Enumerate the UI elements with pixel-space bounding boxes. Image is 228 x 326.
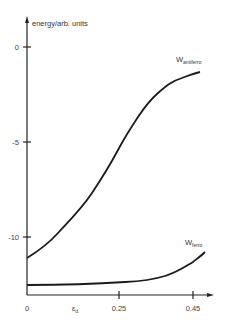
x-tick-label-025: 0.25 bbox=[112, 304, 127, 313]
y-tick-label-minus5: -5 bbox=[12, 138, 19, 147]
y-tick-label-0: 0 bbox=[15, 43, 19, 52]
series-w-ferro bbox=[27, 252, 205, 285]
x-axis-label: εd bbox=[72, 304, 78, 314]
x-axis-arrow-icon bbox=[207, 293, 214, 297]
label-w-ferro: Wferro bbox=[185, 238, 203, 248]
series-w-antiferro bbox=[27, 72, 200, 258]
y-axis-arrow-icon bbox=[25, 16, 29, 23]
x-tick-label-0: 0 bbox=[25, 304, 29, 313]
y-tick-label-minus10: -10 bbox=[8, 233, 19, 242]
y-axis-label: energy/arb. units bbox=[32, 19, 88, 28]
x-tick-label-045: 0.45 bbox=[186, 304, 201, 313]
label-w-antiferro: Wantiferro bbox=[176, 55, 202, 65]
energy-chart: 0 -5 -10 0 0.25 0.45 εd energy/arb. unit… bbox=[0, 0, 228, 326]
